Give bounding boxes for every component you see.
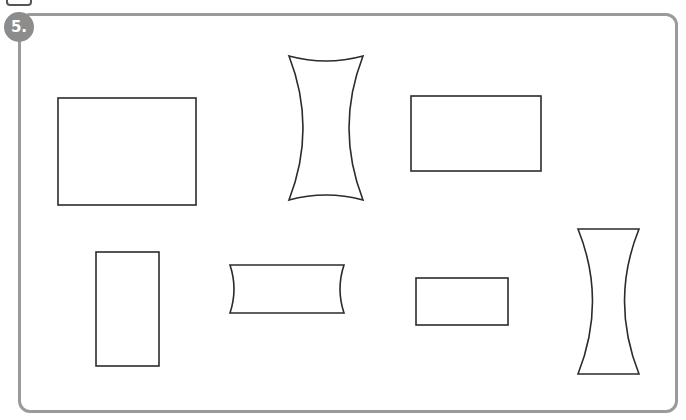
rectangle-shape-1 bbox=[58, 98, 196, 205]
rectangle-shape-2 bbox=[411, 96, 541, 171]
shapes-canvas bbox=[0, 0, 686, 420]
rectangle-shape-3 bbox=[96, 252, 159, 366]
concave-shape-1 bbox=[289, 56, 363, 200]
rectangle-shape-4 bbox=[416, 278, 508, 325]
concave-shape-2 bbox=[230, 265, 344, 313]
concave-shape-3 bbox=[578, 229, 639, 374]
